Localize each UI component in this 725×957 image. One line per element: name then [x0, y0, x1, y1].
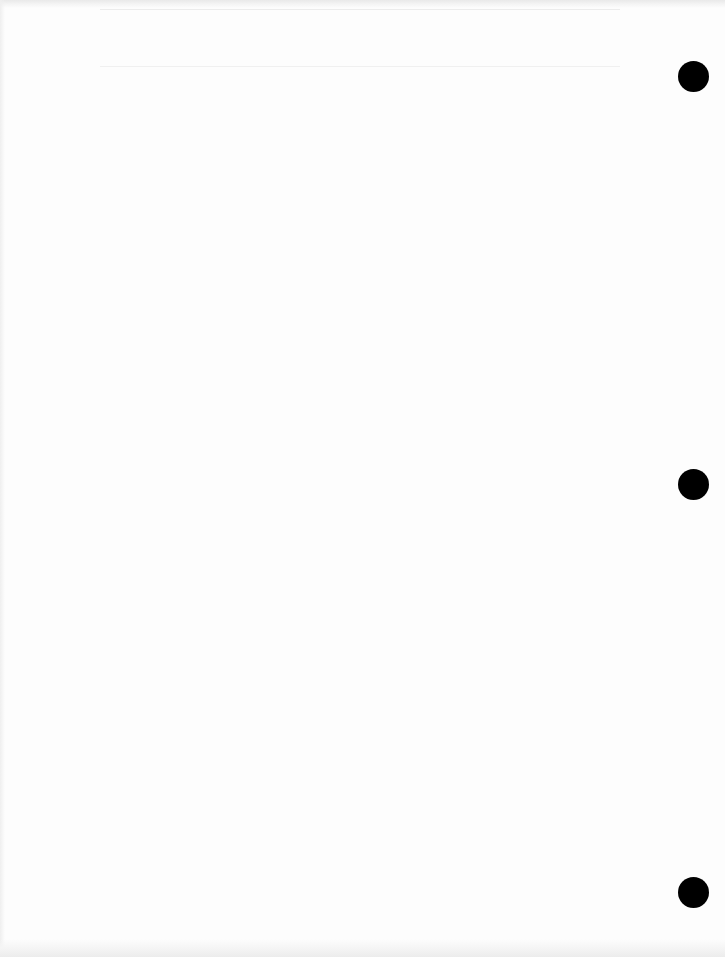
scan-artifact-bottom-edge	[0, 939, 725, 957]
scan-artifact-left-edge	[0, 0, 5, 957]
scan-artifact-top-edge	[0, 0, 725, 8]
punch-hole-top	[678, 61, 709, 92]
punch-hole-bottom	[678, 877, 709, 908]
scan-artifact-line	[100, 66, 620, 67]
scan-artifact-line	[100, 9, 620, 10]
punch-hole-middle	[678, 469, 709, 500]
scanned-page	[0, 0, 725, 957]
